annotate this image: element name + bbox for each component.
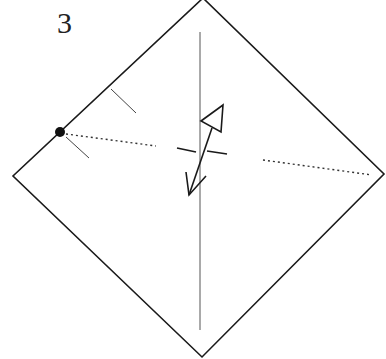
tick-mark-upper: [111, 89, 136, 113]
paper-outline: [13, 0, 384, 357]
origami-step-diagram: 3: [0, 0, 386, 359]
tick-mark-lower: [66, 137, 89, 158]
reference-point-dot: [55, 127, 65, 137]
fold-unfold-arrow-icon: [186, 105, 223, 195]
dotted-guide-right: [263, 160, 372, 175]
dotted-guide-left: [66, 134, 156, 146]
crosshair-dash-right: [207, 151, 227, 154]
diagram-canvas: [0, 0, 386, 359]
crosshair-dash-left: [177, 148, 196, 152]
